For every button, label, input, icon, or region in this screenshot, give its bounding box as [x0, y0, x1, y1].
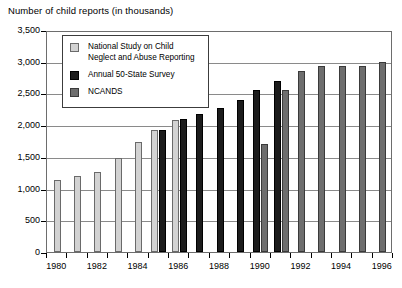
bar [253, 90, 260, 252]
x-axis-tick-mark [107, 253, 108, 258]
legend-item-label: National Study on Child Neglect and Abus… [88, 42, 195, 63]
bar [54, 180, 61, 252]
x-axis-tick-mark [351, 253, 352, 258]
x-axis-tick-mark [148, 253, 149, 258]
bar [379, 62, 386, 252]
x-axis-tick-mark [250, 253, 251, 258]
legend-item: NCANDS [70, 87, 123, 98]
legend-item-label: NCANDS [88, 87, 123, 98]
legend-swatch-icon [70, 71, 79, 80]
x-axis-tick-label: 1988 [199, 261, 239, 271]
bar [159, 130, 166, 252]
x-axis-tick-mark [188, 253, 189, 258]
legend-swatch-icon [70, 43, 79, 52]
chart-axis-title: Number of child reports (in thousands) [8, 5, 173, 16]
y-axis-tick-label: 3,500 [0, 26, 40, 35]
bar [274, 81, 281, 252]
legend-item: Annual 50-State Survey [70, 70, 174, 81]
x-axis-tick-label: 1982 [77, 261, 117, 271]
x-axis-tick-label: 1986 [158, 261, 198, 271]
bar [359, 66, 366, 252]
x-axis-tick-mark [331, 253, 332, 258]
bar [151, 130, 158, 252]
x-axis-tick-mark [311, 253, 312, 258]
bar [261, 144, 268, 252]
x-axis-tick-mark [87, 253, 88, 258]
bar [282, 90, 289, 252]
x-axis-tick-label: 1996 [362, 261, 402, 271]
x-axis-tick-label: 1990 [240, 261, 280, 271]
bar [74, 176, 81, 252]
y-axis-tick-label: 500 [0, 216, 40, 225]
bar [237, 100, 244, 252]
x-axis-tick-mark [392, 253, 393, 258]
y-axis-tick-label: 2,000 [0, 121, 40, 130]
bar [135, 142, 142, 252]
bar-chart: Number of child reports (in thousands) 3… [0, 0, 402, 288]
x-axis-tick-mark [46, 253, 47, 258]
legend-item: National Study on Child Neglect and Abus… [70, 42, 195, 63]
bar [115, 158, 122, 252]
x-axis-tick-mark [209, 253, 210, 258]
x-axis-tick-mark [168, 253, 169, 258]
legend-item-label: Annual 50-State Survey [88, 70, 174, 81]
bar [217, 108, 224, 252]
x-axis-tick-mark [290, 253, 291, 258]
x-axis-tick-label: 1984 [118, 261, 158, 271]
x-axis-tick-mark [66, 253, 67, 258]
chart-legend: National Study on Child Neglect and Abus… [62, 35, 209, 108]
bar [339, 66, 346, 252]
bar [318, 66, 325, 252]
bar [298, 71, 305, 252]
bar [172, 120, 179, 252]
y-axis-tick-label: 2,500 [0, 89, 40, 98]
y-axis-tick-label: 1,000 [0, 185, 40, 194]
x-axis-tick-mark [270, 253, 271, 258]
x-axis-tick-mark [229, 253, 230, 258]
x-axis-tick-mark [372, 253, 373, 258]
y-axis-tick-label: 3,000 [0, 58, 40, 67]
x-axis-tick-mark [127, 253, 128, 258]
x-axis-tick-label: 1980 [36, 261, 76, 271]
x-axis-tick-label: 1992 [280, 261, 320, 271]
bar [94, 172, 101, 252]
y-axis-tick-label: 1,500 [0, 153, 40, 162]
legend-swatch-icon [70, 88, 79, 97]
x-axis-tick-label: 1994 [321, 261, 361, 271]
bar [180, 119, 187, 252]
bar [196, 114, 203, 252]
y-axis-tick-label: 0 [0, 248, 40, 257]
